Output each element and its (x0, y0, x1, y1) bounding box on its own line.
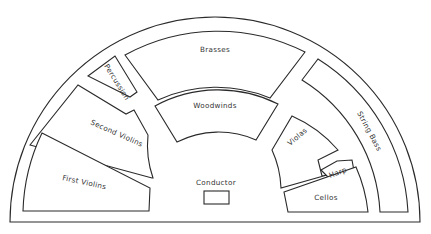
label-cellos: Cellos (314, 193, 337, 202)
label-woodwinds: Woodwinds (193, 101, 236, 110)
orchestra-seating-diagram: Brasses Percussion Woodwinds Second Viol… (0, 0, 431, 234)
label-conductor: Conductor (196, 178, 236, 187)
label-brasses: Brasses (200, 45, 230, 54)
conductor-podium (204, 191, 229, 204)
